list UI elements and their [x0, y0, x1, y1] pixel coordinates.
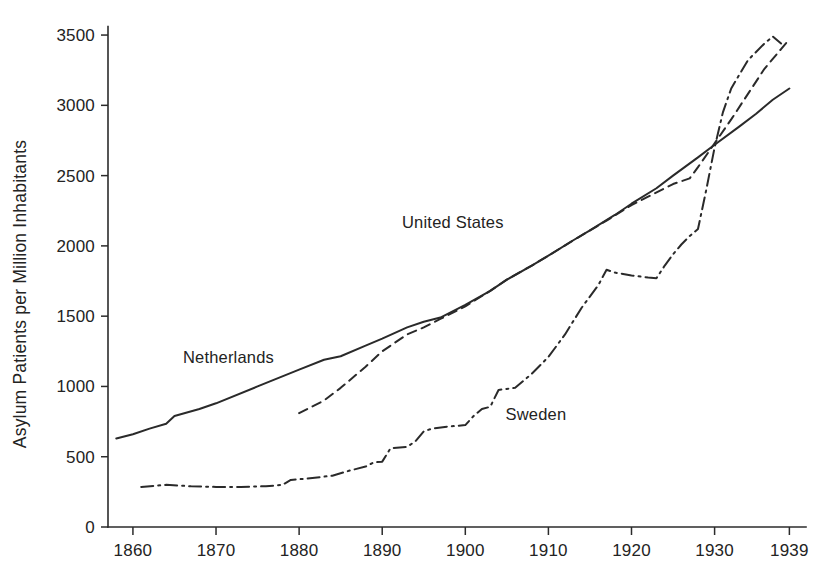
axis-ticks: 0500100015002000250030003500186018701880…	[56, 26, 808, 560]
series-line-united-states	[299, 39, 789, 413]
y-tick-label: 1000	[56, 377, 95, 396]
y-tick-label: 2000	[56, 237, 95, 256]
line-chart: Asylum Patients per Million Inhabitants …	[0, 0, 835, 587]
series-label-layer: NetherlandsUnited StatesSweden	[183, 213, 566, 424]
y-tick-label: 3000	[56, 96, 95, 115]
y-tick-label: 1500	[56, 307, 95, 326]
y-axis-title-group: Asylum Patients per Million Inhabitants	[10, 140, 30, 448]
axis-lines	[108, 27, 806, 527]
x-tick-label: 1930	[695, 541, 734, 560]
series-label-netherlands: Netherlands	[183, 348, 274, 366]
y-tick-label: 500	[66, 448, 95, 467]
x-tick-label: 1900	[446, 541, 485, 560]
x-tick-label: 1870	[197, 541, 236, 560]
series-label-united-states: United States	[402, 213, 504, 231]
series-line-netherlands	[116, 88, 789, 438]
data-series-layer	[116, 36, 789, 486]
series-line-sweden	[141, 36, 781, 486]
y-axis-title: Asylum Patients per Million Inhabitants	[10, 140, 30, 448]
y-tick-label: 3500	[56, 26, 95, 45]
chart-container: Asylum Patients per Million Inhabitants …	[0, 0, 835, 587]
x-tick-label: 1910	[529, 541, 568, 560]
series-label-sweden: Sweden	[506, 405, 567, 423]
y-tick-label: 0	[85, 518, 95, 537]
x-tick-label: 1939	[770, 541, 809, 560]
x-tick-label: 1880	[280, 541, 319, 560]
x-tick-label: 1860	[114, 541, 153, 560]
x-tick-label: 1890	[363, 541, 402, 560]
x-tick-label: 1920	[612, 541, 651, 560]
y-tick-label: 2500	[56, 167, 95, 186]
